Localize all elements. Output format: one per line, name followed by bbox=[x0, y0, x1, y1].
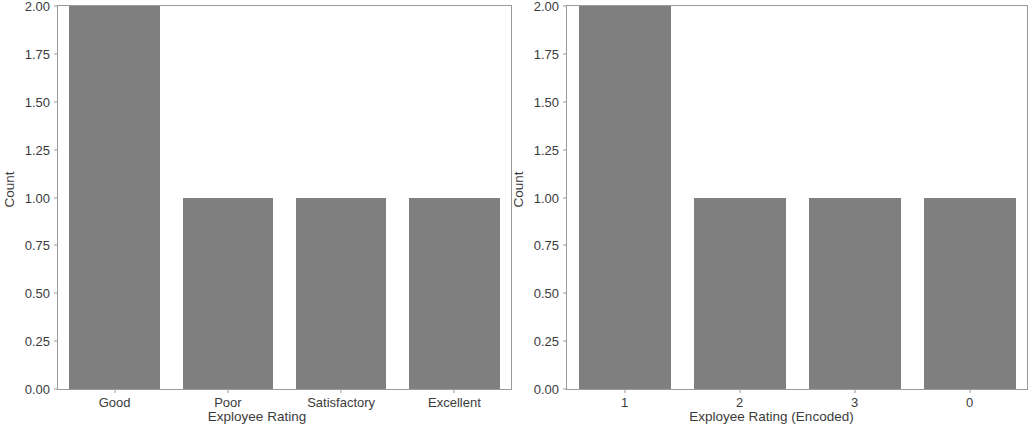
y-tick-label: 1.75 bbox=[534, 47, 567, 60]
x-tick-label: 1 bbox=[621, 389, 628, 409]
bar bbox=[296, 198, 387, 390]
x-tick-label: Satisfactory bbox=[307, 389, 375, 409]
y-tick-mark bbox=[563, 389, 567, 390]
plot-area-right: 0.000.250.500.751.001.251.501.752.001230 bbox=[566, 5, 1028, 390]
y-tick-mark bbox=[54, 101, 58, 102]
y-tick-mark bbox=[54, 245, 58, 246]
y-tick-mark bbox=[563, 101, 567, 102]
bar bbox=[924, 198, 1016, 390]
bar bbox=[694, 198, 786, 390]
x-tick-label: 2 bbox=[736, 389, 743, 409]
subplot-employee-rating-encoded: Count 0.000.250.500.751.001.251.501.752.… bbox=[514, 0, 1029, 429]
bar bbox=[69, 6, 160, 389]
y-tick-mark bbox=[563, 341, 567, 342]
x-tick-label: Poor bbox=[214, 389, 241, 409]
bar-series-left bbox=[58, 6, 511, 389]
subplot-employee-rating: Count 0.000.250.500.751.001.251.501.752.… bbox=[0, 0, 514, 429]
bar bbox=[809, 198, 901, 390]
y-tick-label: 0.50 bbox=[25, 287, 58, 300]
plot-area-left: 0.000.250.500.751.001.251.501.752.00Good… bbox=[57, 5, 512, 390]
y-tick-mark bbox=[563, 293, 567, 294]
y-tick-label: 1.25 bbox=[534, 143, 567, 156]
y-tick-mark bbox=[54, 293, 58, 294]
figure-canvas: Count 0.000.250.500.751.001.251.501.752.… bbox=[0, 0, 1029, 429]
y-tick-label: 0.75 bbox=[25, 239, 58, 252]
bar bbox=[579, 6, 671, 389]
bar-series-right bbox=[567, 6, 1027, 389]
y-tick-mark bbox=[54, 53, 58, 54]
x-tick-label: Good bbox=[99, 389, 131, 409]
y-tick-label: 1.00 bbox=[25, 191, 58, 204]
y-tick-label: 1.50 bbox=[25, 95, 58, 108]
y-tick-mark bbox=[54, 197, 58, 198]
y-tick-label: 1.50 bbox=[534, 95, 567, 108]
bar bbox=[409, 198, 500, 390]
y-axis-label-left: Count bbox=[2, 171, 17, 207]
y-tick-label: 1.75 bbox=[25, 47, 58, 60]
y-tick-mark bbox=[563, 245, 567, 246]
y-tick-mark bbox=[563, 149, 567, 150]
y-axis-label-right: Count bbox=[511, 171, 526, 207]
y-tick-label: 0.50 bbox=[534, 287, 567, 300]
y-tick-label: 0.00 bbox=[534, 383, 567, 396]
y-tick-label: 1.25 bbox=[25, 143, 58, 156]
y-tick-mark bbox=[563, 53, 567, 54]
y-tick-mark bbox=[54, 6, 58, 7]
y-tick-mark bbox=[54, 389, 58, 390]
x-tick-label: 0 bbox=[966, 389, 973, 409]
x-tick-label: 3 bbox=[851, 389, 858, 409]
y-tick-label: 0.25 bbox=[534, 335, 567, 348]
y-tick-mark bbox=[54, 149, 58, 150]
bar bbox=[183, 198, 274, 390]
y-tick-label: 0.25 bbox=[25, 335, 58, 348]
y-tick-mark bbox=[563, 197, 567, 198]
x-axis-label-right: Exployee Rating (Encoded) bbox=[514, 409, 1029, 424]
x-axis-label-left: Exployee Rating bbox=[0, 409, 514, 424]
y-tick-label: 2.00 bbox=[534, 0, 567, 13]
y-tick-mark bbox=[54, 341, 58, 342]
y-tick-label: 0.75 bbox=[534, 239, 567, 252]
x-tick-label: Excellent bbox=[428, 389, 481, 409]
y-tick-label: 1.00 bbox=[534, 191, 567, 204]
y-tick-label: 2.00 bbox=[25, 0, 58, 13]
y-tick-mark bbox=[563, 6, 567, 7]
y-tick-label: 0.00 bbox=[25, 383, 58, 396]
